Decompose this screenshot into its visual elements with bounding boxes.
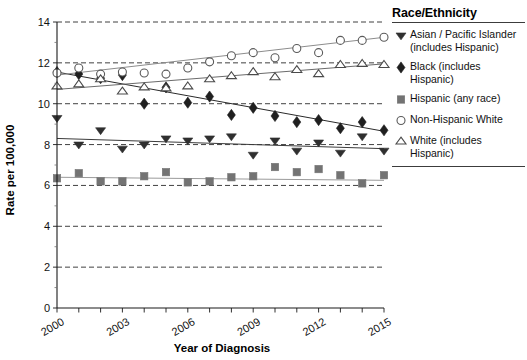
data-point <box>118 68 126 76</box>
data-point <box>141 173 148 180</box>
data-point <box>139 83 149 90</box>
data-point <box>397 96 404 103</box>
legend-item[interactable]: White (includes Hispanic) <box>392 134 525 159</box>
data-point <box>292 148 302 155</box>
data-point <box>162 168 169 175</box>
gridlines <box>57 22 384 267</box>
y-tick-label: 14 <box>38 16 50 28</box>
series-square-filled <box>53 163 387 187</box>
chart-canvas: 02468101214 200020032006200920122015 Rat… <box>0 0 527 360</box>
trendline <box>57 72 384 131</box>
data-point <box>162 70 170 78</box>
data-point <box>248 152 258 159</box>
data-point <box>184 97 192 108</box>
trendlines <box>57 37 384 180</box>
legend-item[interactable]: Black (includes Hispanic) <box>392 60 525 85</box>
y-tick-labels: 02468101214 <box>38 16 50 314</box>
data-point <box>227 109 235 120</box>
legend-items: Asian / Pacific Islander (includes Hispa… <box>392 28 525 159</box>
series-circle-open <box>53 33 388 78</box>
data-point <box>228 174 235 181</box>
legend-item[interactable]: Asian / Pacific Islander (includes Hispa… <box>392 28 525 53</box>
data-point <box>293 168 300 175</box>
data-point <box>293 45 301 53</box>
y-tick-label: 8 <box>44 139 50 151</box>
data-point <box>293 117 301 128</box>
legend-item-label: Black (includes Hispanic) <box>410 60 525 85</box>
data-point <box>140 69 148 77</box>
legend-item[interactable]: Hispanic (any race) <box>392 92 525 106</box>
x-tick-label: 2003 <box>104 315 131 338</box>
data-point <box>315 114 323 125</box>
legend-item-label: Non-Hispanic White <box>410 113 525 126</box>
data-point <box>380 125 388 136</box>
y-tick-label: 6 <box>44 179 50 191</box>
x-axis-title: Year of Diagnosis <box>174 342 271 354</box>
data-point <box>379 148 389 155</box>
data-point <box>184 64 192 72</box>
trendline <box>57 138 384 148</box>
x-tick-label: 2006 <box>170 315 197 338</box>
legend: Race/Ethnicity Asian / Pacific Islander … <box>392 6 525 167</box>
data-point <box>75 64 83 72</box>
y-tick-label: 0 <box>44 302 50 314</box>
data-point <box>97 178 104 185</box>
data-point <box>75 169 82 176</box>
data-point <box>74 80 84 87</box>
data-point <box>206 178 213 185</box>
x-tick-label: 2012 <box>300 315 327 338</box>
triangle-up-open-icon <box>392 134 410 148</box>
y-tick-label: 2 <box>44 261 50 273</box>
data-point <box>336 36 344 44</box>
x-tick-label: 2000 <box>39 315 66 338</box>
square-filled-icon <box>392 92 410 106</box>
data-point <box>358 117 366 128</box>
y-tick-label: 12 <box>38 57 50 69</box>
data-point <box>183 82 193 89</box>
data-point <box>397 62 405 73</box>
data-point <box>205 136 215 143</box>
data-point <box>140 98 148 109</box>
data-point <box>380 172 387 179</box>
legend-title: Race/Ethnicity <box>392 6 525 22</box>
y-tick-label: 10 <box>38 98 50 110</box>
data-point <box>315 49 323 57</box>
data-point <box>270 138 280 145</box>
data-point <box>184 179 191 186</box>
chart-figure: 02468101214 200020032006200920122015 Rat… <box>0 0 527 360</box>
data-point <box>397 117 405 125</box>
data-point <box>117 87 127 94</box>
y-axis-title: Rate per 100,000 <box>4 125 16 216</box>
data-point <box>139 142 149 149</box>
trendline <box>57 37 384 75</box>
legend-divider-top <box>392 22 525 23</box>
data-point <box>335 150 345 157</box>
legend-item-label: Asian / Pacific Islander (includes Hispa… <box>410 28 525 53</box>
circle-open-icon <box>392 113 410 127</box>
legend-item-label: White (includes Hispanic) <box>410 134 525 159</box>
data-point <box>292 66 302 73</box>
data-point <box>117 146 127 153</box>
data-point <box>183 138 193 145</box>
data-point <box>248 68 258 75</box>
data-point <box>396 137 406 144</box>
legend-divider-bottom <box>392 166 525 167</box>
data-point <box>315 165 322 172</box>
x-tick-labels: 200020032006200920122015 <box>39 315 393 338</box>
data-point <box>249 49 257 57</box>
data-point <box>337 172 344 179</box>
data-point <box>270 73 280 80</box>
data-point <box>250 173 257 180</box>
data-point <box>206 58 214 66</box>
triangle-down-filled-icon <box>392 28 410 42</box>
data-point <box>357 134 367 141</box>
data-point <box>74 142 84 149</box>
data-point <box>380 33 388 41</box>
data-point <box>396 33 406 40</box>
data-point <box>205 75 215 82</box>
y-tick-label: 4 <box>44 220 50 232</box>
data-point <box>335 61 345 68</box>
x-tick-label: 2009 <box>235 315 262 338</box>
legend-item[interactable]: Non-Hispanic White <box>392 113 525 127</box>
trendline <box>57 177 384 180</box>
